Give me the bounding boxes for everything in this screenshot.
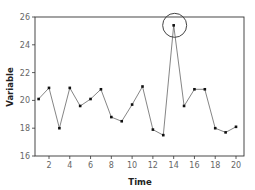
x-tick-label: 14 (169, 161, 179, 170)
data-point-marker (100, 88, 103, 91)
data-point-marker (214, 127, 217, 130)
data-point-marker (58, 127, 61, 130)
x-tick-label: 18 (210, 161, 220, 170)
data-point-marker (152, 128, 155, 131)
data-point-marker (193, 88, 196, 91)
data-point-marker (110, 116, 113, 119)
data-point-marker (48, 87, 51, 90)
data-point-marker (204, 88, 207, 91)
y-tick-label: 26 (20, 13, 30, 22)
data-point-marker (120, 120, 123, 123)
data-series (37, 24, 237, 136)
data-point-marker (68, 87, 71, 90)
data-point-marker (224, 131, 227, 134)
x-tick-label: 4 (67, 161, 72, 170)
data-point-marker (37, 98, 40, 101)
x-tick-label: 2 (46, 161, 51, 170)
y-axis-ticks: 161820222426 (20, 13, 35, 161)
data-point-marker (89, 98, 92, 101)
x-tick-label: 20 (231, 161, 241, 170)
data-point-marker (141, 85, 144, 88)
y-tick-label: 20 (20, 96, 30, 105)
y-axis-title: Variable (5, 67, 15, 107)
plot-border (35, 17, 244, 156)
data-point-marker (183, 105, 186, 108)
x-tick-label: 6 (88, 161, 93, 170)
y-tick-label: 16 (20, 152, 30, 161)
plot-frame (35, 17, 244, 156)
series-line (39, 25, 236, 135)
data-point-marker (162, 134, 165, 137)
line-chart: 161820222426 2468101214161820 Time Varia… (0, 0, 255, 190)
x-tick-label: 10 (127, 161, 137, 170)
x-tick-label: 8 (109, 161, 114, 170)
y-tick-label: 22 (20, 69, 30, 78)
x-tick-label: 12 (148, 161, 158, 170)
data-point-marker (172, 24, 175, 27)
data-point-marker (235, 126, 238, 129)
x-tick-label: 16 (189, 161, 199, 170)
y-tick-label: 24 (20, 41, 30, 50)
y-tick-label: 18 (20, 124, 30, 133)
data-point-marker (79, 105, 82, 108)
x-axis-ticks: 2468101214161820 (46, 156, 241, 170)
data-point-marker (131, 103, 134, 106)
x-axis-title: Time (128, 177, 152, 187)
